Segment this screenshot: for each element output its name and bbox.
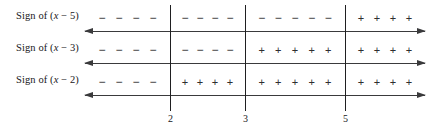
sign-glyph-minus: − [224, 43, 236, 57]
sign-glyph-plus: + [256, 43, 268, 57]
sign-glyph-plus: + [224, 75, 236, 89]
tick-label-5: 5 [343, 113, 348, 124]
number-line-axis-1 [85, 31, 425, 32]
sign-glyph-plus: + [306, 43, 318, 57]
sign-glyph-minus: − [224, 11, 236, 25]
sign-glyph-plus: + [387, 11, 399, 25]
number-line-axis-3 [85, 95, 425, 96]
sign-glyph-plus: + [256, 75, 268, 89]
sign-glyph-minus: − [209, 43, 221, 57]
row-label-suffix: − 5) [58, 10, 78, 21]
sign-glyph-minus: − [147, 75, 159, 89]
sign-glyph-plus: + [272, 75, 284, 89]
sign-glyph-plus: + [322, 75, 334, 89]
sign-glyph-plus: + [289, 75, 301, 89]
row-label-3: Sign of (x − 2) [16, 74, 79, 86]
sign-glyph-minus: − [289, 11, 301, 25]
critical-value-line-2 [170, 5, 171, 111]
sign-glyph-minus: − [130, 75, 142, 89]
sign-glyph-plus: + [355, 75, 367, 89]
row-label-suffix: − 2) [58, 74, 78, 85]
sign-glyph-minus: − [96, 11, 108, 25]
sign-glyph-plus: + [194, 75, 206, 89]
sign-glyph-minus: − [306, 11, 318, 25]
sign-glyph-plus: + [355, 11, 367, 25]
sign-glyph-plus: + [403, 11, 415, 25]
sign-row-3: −−−−+++++++++++++ [85, 75, 425, 89]
sign-glyph-minus: − [256, 11, 268, 25]
sign-chart: Sign of (x − 5)−−−−−−−−−−−−−++++Sign of … [0, 0, 448, 136]
sign-glyph-plus: + [355, 43, 367, 57]
sign-glyph-minus: − [209, 11, 221, 25]
sign-glyph-plus: + [371, 11, 383, 25]
sign-glyph-plus: + [403, 43, 415, 57]
critical-value-line-3 [245, 5, 246, 111]
sign-glyph-plus: + [209, 75, 221, 89]
sign-glyph-minus: − [130, 43, 142, 57]
row-label-2: Sign of (x − 3) [16, 42, 79, 54]
sign-glyph-minus: − [113, 11, 125, 25]
sign-glyph-minus: − [179, 43, 191, 57]
sign-glyph-plus: + [179, 75, 191, 89]
critical-value-line-5 [345, 5, 346, 111]
sign-glyph-minus: − [96, 43, 108, 57]
sign-glyph-plus: + [371, 43, 383, 57]
sign-glyph-minus: − [113, 75, 125, 89]
sign-row-2: −−−−−−−−+++++++++ [85, 43, 425, 57]
sign-glyph-plus: + [322, 43, 334, 57]
sign-glyph-plus: + [387, 43, 399, 57]
row-label-suffix: − 3) [58, 42, 78, 53]
sign-glyph-minus: − [272, 11, 284, 25]
tick-label-2: 2 [168, 113, 173, 124]
sign-glyph-minus: − [179, 11, 191, 25]
sign-glyph-plus: + [371, 75, 383, 89]
sign-glyph-plus: + [387, 75, 399, 89]
sign-glyph-plus: + [403, 75, 415, 89]
sign-glyph-minus: − [194, 11, 206, 25]
row-label-prefix: Sign of ( [16, 10, 54, 21]
row-label-prefix: Sign of ( [16, 42, 54, 53]
sign-glyph-plus: + [306, 75, 318, 89]
sign-glyph-minus: − [147, 43, 159, 57]
sign-glyph-minus: − [194, 43, 206, 57]
row-label-prefix: Sign of ( [16, 74, 54, 85]
sign-glyph-minus: − [130, 11, 142, 25]
sign-row-1: −−−−−−−−−−−−−++++ [85, 11, 425, 25]
number-line-axis-2 [85, 63, 425, 64]
sign-glyph-minus: − [113, 43, 125, 57]
tick-label-3: 3 [243, 113, 248, 124]
sign-glyph-plus: + [272, 43, 284, 57]
sign-glyph-minus: − [96, 75, 108, 89]
sign-glyph-plus: + [289, 43, 301, 57]
sign-glyph-minus: − [322, 11, 334, 25]
row-label-1: Sign of (x − 5) [16, 10, 79, 22]
sign-glyph-minus: − [147, 11, 159, 25]
